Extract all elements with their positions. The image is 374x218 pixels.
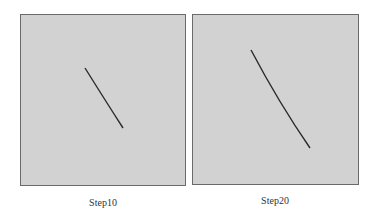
step20-caption: Step20 xyxy=(235,195,315,206)
step20-line-drawing xyxy=(193,15,360,186)
step20-panel xyxy=(192,14,359,185)
step10-line-drawing xyxy=(21,15,187,187)
step10-caption: Step10 xyxy=(63,197,143,208)
step10-panel xyxy=(20,14,186,186)
